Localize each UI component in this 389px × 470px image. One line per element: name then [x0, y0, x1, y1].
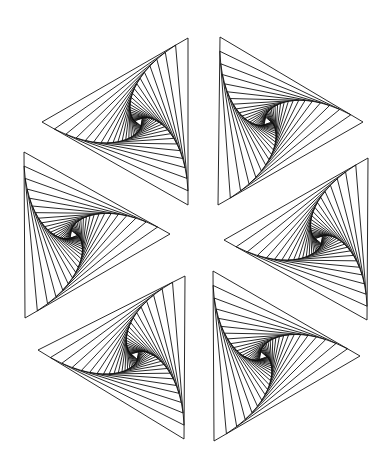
- nested-triangle: [81, 301, 179, 393]
- nested-triangle: [214, 298, 336, 426]
- nested-triangle: [107, 84, 173, 143]
- whirl-triangle-middle-left: [24, 152, 170, 318]
- whirl-hexagon-artwork: [0, 0, 389, 470]
- whirl-triangle-top-right: [218, 37, 363, 205]
- nested-triangle: [39, 213, 105, 272]
- nested-triangle: [25, 178, 146, 303]
- nested-triangle: [42, 38, 188, 205]
- nested-triangle: [220, 51, 351, 198]
- whirl-triangle-middle-right: [224, 158, 368, 320]
- nested-triangle: [66, 52, 187, 178]
- whirl-triangle-bottom-right: [213, 271, 360, 441]
- whirl-triangle-bottom-left: [38, 276, 185, 439]
- whirl-pattern-svg: [0, 0, 389, 470]
- nested-triangle: [228, 334, 295, 394]
- whirl-triangle-top-left: [42, 38, 188, 205]
- nested-triangle: [236, 165, 367, 306]
